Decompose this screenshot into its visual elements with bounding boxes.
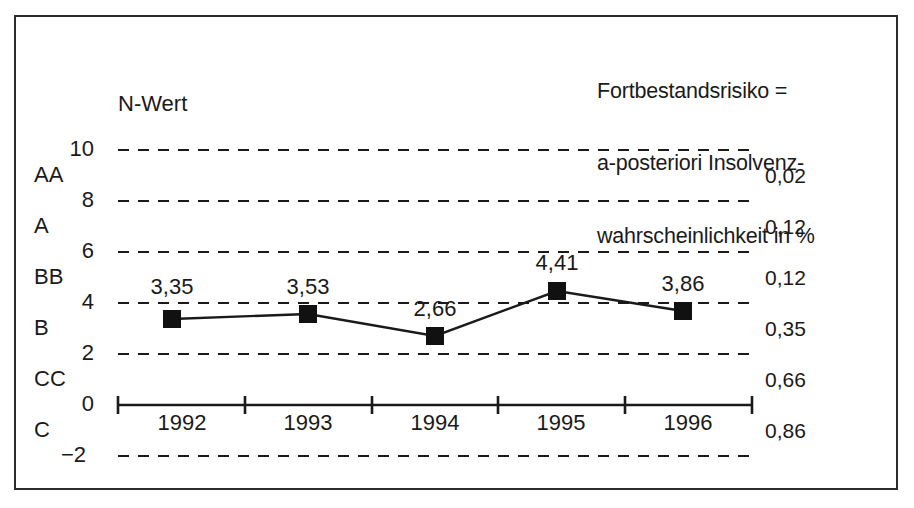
data-label-1993: 3,53 (263, 275, 353, 300)
y-tick-label-8: 8 (48, 188, 94, 213)
x-tick-label-1994: 1994 (375, 411, 495, 436)
chart-figure: Fortbestandsrisiko = a-posteriori Insolv… (0, 0, 914, 508)
y-axis-title: N-Wert (118, 92, 187, 117)
x-tick-label-1992: 1992 (122, 411, 242, 436)
y-tick-label-6: 6 (48, 239, 94, 264)
risk-label-4: 0,66 (765, 368, 806, 392)
risk-label-1: 0,12 (765, 215, 806, 239)
risk-label-5: 0,86 (765, 419, 806, 443)
x-tick-label-1995: 1995 (501, 411, 621, 436)
data-label-1996: 3,86 (638, 272, 728, 297)
risk-label-0: 0,02 (765, 164, 806, 188)
data-label-1994: 2,66 (390, 297, 480, 322)
rating-label-BB: BB (34, 265, 63, 290)
risk-label-2: 0,12 (765, 266, 806, 290)
rating-label-CC: CC (34, 367, 66, 392)
y-tick-label-10: 10 (48, 137, 94, 162)
rating-label-AA: AA (34, 163, 63, 188)
x-tick-label-1996: 1996 (628, 411, 748, 436)
rating-label-C: C (34, 418, 50, 443)
y-tick-label-4: 4 (48, 290, 94, 315)
rating-label-B: B (34, 316, 49, 341)
data-label-1992: 3,35 (127, 275, 217, 300)
caption-line-1: Fortbestandsrisiko = (597, 79, 815, 103)
rating-label-A: A (34, 214, 49, 239)
x-tick-label-1993: 1993 (248, 411, 368, 436)
y-tick-label-minus2: −2 (40, 443, 86, 468)
risk-label-3: 0,35 (765, 317, 806, 341)
data-label-1995: 4,41 (512, 251, 602, 276)
y-tick-label-0: 0 (48, 392, 94, 417)
y-tick-label-2: 2 (48, 341, 94, 366)
